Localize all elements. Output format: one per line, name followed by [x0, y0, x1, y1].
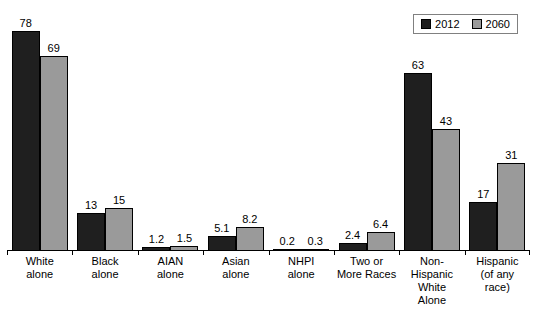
bar-2060 [497, 163, 525, 250]
bar-column: 63 [404, 59, 432, 250]
bar-column: 43 [432, 115, 460, 250]
bar-column: 78 [12, 17, 40, 250]
category-label-5: NHPIalone [269, 255, 334, 307]
bar-group-6: 2.46.4 [334, 0, 399, 250]
bar-group-7: 6343 [399, 0, 464, 250]
bar-column: 2.4 [339, 229, 367, 250]
bar-2012 [208, 236, 236, 250]
value-label: 63 [412, 59, 424, 71]
bar-column: 8.2 [236, 213, 264, 250]
bar-2012 [12, 31, 40, 250]
bar-2012 [469, 202, 497, 250]
bar-group-5: 0.20.3 [269, 0, 334, 250]
value-label: 0.2 [280, 235, 295, 247]
bar-2060 [105, 208, 133, 250]
bar-group-4: 5.18.2 [203, 0, 268, 250]
bar-column: 31 [497, 149, 525, 250]
bar-chart: 786913151.21.55.18.20.20.32.46.463431731… [0, 0, 533, 309]
bar-group-8: 1731 [465, 0, 530, 250]
bar-column: 15 [105, 194, 133, 250]
legend-swatch-2012 [421, 19, 431, 29]
bar-column: 13 [77, 199, 105, 250]
value-label: 43 [440, 115, 452, 127]
bar-column: 5.1 [208, 222, 236, 250]
bar-column: 0.3 [301, 235, 329, 250]
value-label: 31 [505, 149, 517, 161]
bar-column: 69 [40, 42, 68, 250]
value-label: 8.2 [242, 213, 257, 225]
legend-item-2060: 2060 [472, 18, 510, 30]
bar-2012 [339, 243, 367, 250]
legend-item-2012: 2012 [421, 18, 459, 30]
category-label-6: Two orMore Races [334, 255, 399, 307]
category-label-1: Whitealone [7, 255, 72, 307]
bar-2060 [236, 227, 264, 250]
bar-group-3: 1.21.5 [138, 0, 203, 250]
bar-2012 [404, 73, 432, 250]
value-label: 0.3 [308, 235, 323, 247]
value-label: 1.5 [177, 232, 192, 244]
category-labels: WhitealoneBlackaloneAIANaloneAsianaloneN… [7, 255, 530, 307]
value-label: 5.1 [214, 222, 229, 234]
bar-2060 [40, 56, 68, 250]
value-label: 1.2 [149, 233, 164, 245]
category-label-2: Blackalone [72, 255, 137, 307]
legend-label-2060: 2060 [486, 18, 510, 30]
legend: 2012 2060 [413, 14, 518, 34]
value-label: 17 [477, 188, 489, 200]
category-label-7: Non-HispanicWhiteAlone [399, 255, 464, 307]
bar-group-1: 7869 [7, 0, 72, 250]
value-label: 78 [20, 17, 32, 29]
category-label-3: AIANalone [138, 255, 203, 307]
bar-column: 1.2 [142, 233, 170, 250]
bar-column: 1.5 [170, 232, 198, 250]
bar-groups: 786913151.21.55.18.20.20.32.46.463431731 [7, 0, 530, 250]
value-label: 6.4 [373, 218, 388, 230]
plot-area: 786913151.21.55.18.20.20.32.46.463431731 [7, 0, 530, 250]
bar-column: 17 [469, 188, 497, 250]
bar-2060 [367, 232, 395, 250]
bar-column: 6.4 [367, 218, 395, 250]
bar-2060 [432, 129, 460, 250]
legend-swatch-2060 [472, 19, 482, 29]
legend-label-2012: 2012 [435, 18, 459, 30]
category-label-8: Hispanic(of anyrace) [465, 255, 530, 307]
value-label: 13 [85, 199, 97, 211]
value-label: 69 [48, 42, 60, 54]
bar-group-2: 1315 [72, 0, 137, 250]
value-label: 15 [113, 194, 125, 206]
value-label: 2.4 [345, 229, 360, 241]
bar-column: 0.2 [273, 235, 301, 250]
category-label-4: Asianalone [203, 255, 268, 307]
bar-2012 [77, 213, 105, 250]
